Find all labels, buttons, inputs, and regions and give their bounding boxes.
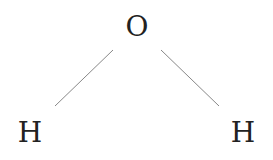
atom-oxygen: O [126, 13, 149, 41]
bond-o-h-left [55, 50, 113, 106]
atom-hydrogen-right: H [231, 119, 255, 147]
bond-o-h-right [161, 50, 219, 106]
atom-hydrogen-left: H [18, 119, 42, 147]
